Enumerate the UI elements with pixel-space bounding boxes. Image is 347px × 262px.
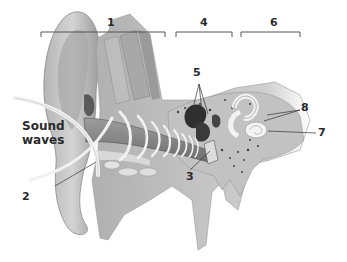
bracket-middle-ear bbox=[176, 32, 232, 37]
label-7-cochlea: 7 bbox=[318, 127, 326, 138]
bracket-inner-ear bbox=[241, 32, 300, 37]
label-8-semicircular-canals: 8 bbox=[301, 102, 309, 113]
label-1-outer-ear: 1 bbox=[107, 17, 115, 28]
sound-waves-label-line2: waves bbox=[22, 133, 65, 147]
sound-waves-label-line1: Sound bbox=[22, 119, 65, 133]
label-6-inner-ear: 6 bbox=[270, 17, 278, 28]
label-4-middle-ear: 4 bbox=[200, 17, 208, 28]
label-3-eardrum: 3 bbox=[186, 171, 194, 182]
sound-waves-label: Sound waves bbox=[22, 119, 65, 147]
label-2-ear-canal: 2 bbox=[22, 191, 30, 202]
label-5-ossicles: 5 bbox=[193, 67, 201, 78]
